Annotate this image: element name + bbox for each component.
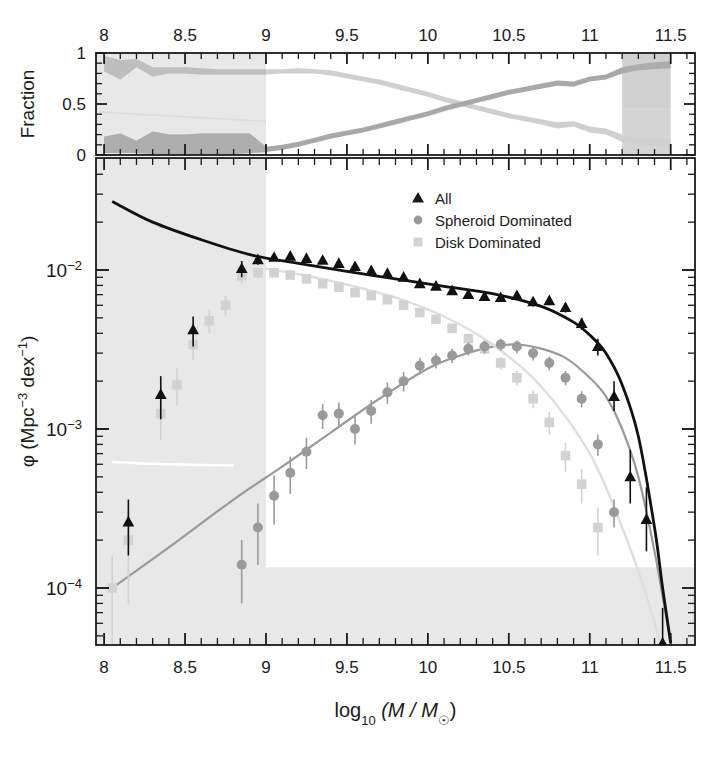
main-x-ticklabel: 11 (581, 658, 599, 677)
marker-circle (269, 491, 279, 501)
main-x-ticklabel: 11.5 (655, 658, 687, 677)
main-x-ticklabel: 10 (418, 658, 437, 677)
marker-circle (285, 468, 295, 478)
marker-circle (577, 394, 587, 404)
marker-circle (366, 406, 376, 416)
top-x-ticklabel: 9 (261, 26, 270, 45)
fraction-y-ticklabel: 0.5 (62, 95, 86, 114)
marker-square (415, 308, 425, 318)
marker-square (318, 279, 328, 289)
marker-square (464, 334, 474, 344)
stellar-mass-function-figure: 00.5188.599.51010.51111.5 10−210−310−488… (0, 0, 717, 768)
main-x-ticklabel: 8.5 (173, 658, 197, 677)
marker-circle (463, 344, 473, 354)
marker-square (334, 282, 344, 292)
marker-square (447, 323, 457, 333)
fraction-axis-title: Fraction (17, 70, 38, 139)
marker-circle (544, 358, 554, 368)
top-x-ticklabel: 8.5 (173, 26, 197, 45)
marker-circle (528, 348, 538, 358)
marker-square (431, 314, 441, 324)
top-x-ticklabel: 11.5 (655, 26, 687, 45)
incompleteness-shading-vertical (96, 158, 266, 645)
marker-circle (480, 342, 490, 352)
figure-container: 00.5188.599.51010.51111.5 10−210−310−488… (0, 0, 717, 768)
marker-square (285, 270, 295, 280)
marker-square (512, 373, 522, 383)
marker-square (366, 291, 376, 301)
legend-label: Disk Dominated (435, 234, 541, 251)
marker-square (383, 295, 393, 305)
main-x-ticklabel: 9 (261, 658, 270, 677)
marker-circle (382, 387, 392, 397)
top-x-ticklabel: 10 (418, 26, 437, 45)
marker-circle (496, 339, 506, 349)
fraction-highmass-block-spheroid (622, 53, 671, 108)
marker-square (496, 358, 506, 368)
legend-marker-square (414, 238, 423, 247)
marker-square (269, 268, 279, 278)
legend-label: All (435, 190, 452, 207)
fraction-y-ticklabel: 0 (77, 146, 86, 165)
marker-circle (447, 350, 457, 360)
marker-square (528, 394, 538, 404)
marker-circle (431, 355, 441, 365)
main-x-ticklabel: 8 (99, 658, 108, 677)
marker-circle (350, 424, 360, 434)
marker-circle (609, 507, 619, 517)
marker-square (302, 274, 312, 284)
marker-square (593, 523, 603, 533)
marker-circle (318, 410, 328, 420)
fraction-highmass-block-disk (622, 108, 671, 155)
marker-square (253, 268, 263, 278)
marker-circle (237, 560, 247, 570)
top-x-ticklabel: 9.5 (335, 26, 359, 45)
fraction-y-ticklabel: 1 (77, 44, 86, 63)
marker-circle (560, 373, 570, 383)
marker-circle (253, 523, 263, 533)
main-x-ticklabel: 9.5 (335, 658, 359, 677)
marker-square (205, 316, 215, 326)
marker-circle (399, 376, 409, 386)
top-x-ticklabel: 10.5 (492, 26, 525, 45)
marker-square (399, 300, 409, 310)
marker-square (221, 300, 231, 310)
marker-circle (512, 342, 522, 352)
marker-circle (334, 409, 344, 419)
marker-square (561, 451, 571, 461)
main-x-ticklabel: 10.5 (492, 658, 525, 677)
top-x-ticklabel: 11 (581, 26, 599, 45)
marker-square (544, 418, 554, 428)
legend-marker-circle (414, 216, 423, 225)
incompleteness-shading-horizontal (266, 567, 695, 645)
marker-circle (301, 447, 311, 457)
marker-square (172, 380, 182, 390)
marker-circle (593, 439, 603, 449)
marker-square (350, 288, 360, 298)
marker-square (577, 479, 587, 489)
marker-circle (415, 361, 425, 371)
legend-label: Spheroid Dominated (435, 212, 572, 229)
top-x-ticklabel: 8 (99, 26, 108, 45)
